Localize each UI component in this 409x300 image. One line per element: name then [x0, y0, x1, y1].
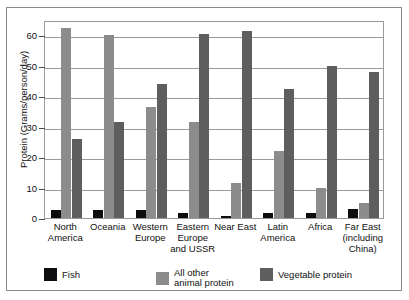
- legend-swatch: [156, 272, 169, 285]
- x-axis-category-labels: North AmericaOceaniaWestern EuropeEaster…: [44, 221, 384, 267]
- bar: [231, 183, 241, 218]
- bar: [306, 213, 316, 218]
- bar: [146, 107, 156, 218]
- bar: [104, 35, 114, 218]
- bar: [189, 122, 199, 218]
- bar: [327, 66, 337, 218]
- bar: [316, 188, 326, 218]
- y-axis-title: Protein (Grams/person/day): [18, 25, 29, 195]
- bar: [348, 209, 358, 218]
- y-tick-20: [39, 158, 45, 159]
- y-tick-60: [39, 36, 45, 37]
- y-tick-40: [39, 97, 45, 98]
- legend-label: Fish: [62, 270, 80, 280]
- bar: [157, 84, 167, 218]
- bar: [274, 151, 284, 218]
- bar: [221, 216, 231, 218]
- bar: [136, 210, 146, 218]
- bar: [284, 89, 294, 218]
- bar: [93, 210, 103, 218]
- legend-swatch: [260, 268, 273, 281]
- legend-label: All other animal protein: [174, 268, 234, 288]
- bar: [61, 28, 71, 218]
- x-axis-label: Far East (including China): [336, 221, 391, 254]
- y-tick-30: [39, 128, 45, 129]
- bar: [51, 210, 61, 218]
- bar: [178, 213, 188, 218]
- chart-figure: Protein (Grams/person/day) 0102030405060…: [0, 0, 409, 300]
- bar-group: [93, 22, 124, 218]
- bar: [263, 213, 273, 218]
- legend-item: Fish: [44, 268, 80, 281]
- legend-item: All other animal protein: [156, 268, 234, 288]
- bar: [199, 34, 209, 218]
- bar-group: [306, 22, 337, 218]
- bar: [242, 31, 252, 218]
- y-tick-10: [39, 189, 45, 190]
- bar-group: [221, 22, 252, 218]
- bar-group: [51, 22, 82, 218]
- bar-group: [263, 22, 294, 218]
- y-tick-50: [39, 67, 45, 68]
- legend-item: Vegetable protein: [260, 268, 352, 281]
- bar-group: [348, 22, 379, 218]
- plot-area: [44, 21, 384, 219]
- bar: [72, 139, 82, 218]
- bar-group: [178, 22, 209, 218]
- bar: [369, 72, 379, 218]
- y-tick-0: [39, 219, 45, 220]
- chart-legend: FishAll other animal proteinVegetable pr…: [44, 268, 389, 292]
- bar: [114, 122, 124, 218]
- bar-group: [136, 22, 167, 218]
- legend-label: Vegetable protein: [278, 270, 352, 280]
- legend-swatch: [44, 268, 57, 281]
- bar: [359, 203, 369, 218]
